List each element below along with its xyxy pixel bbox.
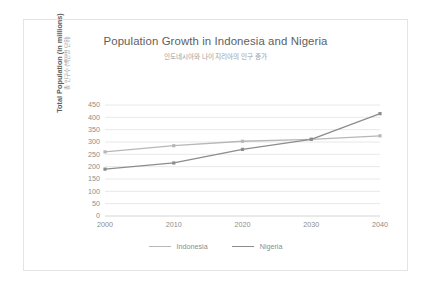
series-marker xyxy=(172,161,175,164)
y-tick-label: 400 xyxy=(78,114,100,121)
series-marker xyxy=(241,140,244,143)
y-tick-label: 250 xyxy=(78,151,100,158)
y-axis-title: Total Population (in millions) 총 인구수 (백만… xyxy=(52,0,74,126)
series-marker xyxy=(310,138,313,141)
x-tick-label: 2030 xyxy=(289,221,333,228)
chart-title: Population Growth in Indonesia and Niger… xyxy=(24,35,407,47)
chart-subtitle: 인도네시아와 나이지리아의 인구 증가 xyxy=(24,51,407,61)
x-axis-tick-labels: 20002010202020302040 xyxy=(105,221,380,235)
legend-swatch xyxy=(232,246,254,247)
chart-legend: IndonesiaNigeria xyxy=(24,242,407,251)
y-tick-label: 50 xyxy=(78,200,100,207)
legend-swatch xyxy=(149,246,171,247)
y-tick-label: 0 xyxy=(78,212,100,219)
series-marker xyxy=(103,150,106,153)
y-tick-label: 100 xyxy=(78,188,100,195)
y-axis-tick-labels: 450400350300250200150100500 xyxy=(74,105,100,216)
y-axis-title-en: Total Population (in millions) xyxy=(56,13,64,113)
plot-area xyxy=(105,105,380,216)
x-tick-label: 2020 xyxy=(221,221,265,228)
series-marker xyxy=(103,168,106,171)
y-tick-label: 450 xyxy=(78,101,100,108)
title-block: Population Growth in Indonesia and Niger… xyxy=(24,35,407,61)
series-marker xyxy=(172,144,175,147)
y-tick-label: 150 xyxy=(78,175,100,182)
legend-item-nigeria[interactable]: Nigeria xyxy=(232,242,283,251)
series-marker xyxy=(241,148,244,151)
data-series-layer xyxy=(105,105,380,216)
y-tick-label: 300 xyxy=(78,138,100,145)
legend-item-indonesia[interactable]: Indonesia xyxy=(149,242,208,251)
x-tick-label: 2010 xyxy=(152,221,196,228)
y-tick-label: 350 xyxy=(78,126,100,133)
y-axis-title-ko: 총 인구수 (백만명 단위) xyxy=(64,36,70,89)
x-tick-label: 2000 xyxy=(83,221,127,228)
y-tick-label: 200 xyxy=(78,163,100,170)
legend-label: Indonesia xyxy=(177,242,208,251)
legend-label: Nigeria xyxy=(260,242,283,251)
series-marker xyxy=(378,112,381,115)
chart-card: Population Growth in Indonesia and Niger… xyxy=(23,19,408,271)
x-tick-label: 2040 xyxy=(358,221,402,228)
series-marker xyxy=(378,134,381,137)
